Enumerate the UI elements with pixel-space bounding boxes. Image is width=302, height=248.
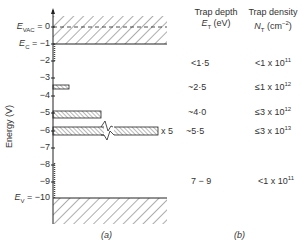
tick-label-minus-1: EC = −1	[0, 38, 50, 50]
header-trap-depth: Trap depth ET (eV)	[186, 7, 246, 33]
tick-label-minus-2: −2	[0, 55, 50, 65]
trap-bar-6-2	[53, 121, 158, 140]
tick-label-minus-8: −8	[0, 159, 50, 169]
row-4-density: ≤3 x 1013	[255, 125, 291, 136]
valence-band-region	[53, 198, 167, 224]
row-2-density: ≤1 x 1012	[255, 81, 291, 92]
row-4-depth: ~5·5	[186, 126, 204, 136]
tick-label-minus-10: EV = −10	[0, 192, 50, 204]
y-axis-label: Energy (V)	[4, 105, 14, 148]
tick-label-minus-4: −4	[0, 90, 50, 100]
row-3-density: ≤3 x 1012	[255, 106, 291, 117]
conduction-band-region	[53, 16, 167, 44]
multiplier-label: x 5	[161, 126, 173, 136]
trap-bar-3-5	[53, 85, 69, 89]
tick-label-minus-9: −9	[0, 176, 50, 186]
trap-bar-5-2	[53, 111, 101, 118]
tick-label-0: EVAC = 0	[0, 21, 50, 33]
row-2-depth: ~2·5	[188, 82, 206, 92]
row-1-depth: <1·5	[191, 58, 209, 68]
row-1-density: <1 x 1011	[255, 57, 291, 68]
row-3-depth: ~4·0	[188, 107, 206, 117]
caption-b: (b)	[234, 230, 245, 240]
caption-a: (a)	[101, 230, 112, 240]
row-5-density: <1 x 1011	[258, 175, 294, 186]
tick-label-minus-3: −3	[0, 72, 50, 82]
row-5-depth: 7 − 9	[191, 176, 211, 186]
header-trap-density: Trap density NT (cm−2)	[242, 7, 302, 36]
